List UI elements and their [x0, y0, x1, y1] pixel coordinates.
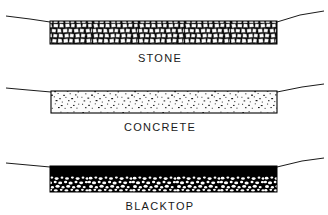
concrete-layer-fill — [51, 91, 277, 113]
stone-layer-fill — [50, 21, 277, 44]
pavement-cross-section-figure: STONE CONCRETE BLACKTOP — [0, 0, 328, 215]
stone-label: STONE — [138, 52, 182, 64]
blacktop-asphalt-surface — [50, 166, 277, 176]
figure-canvas: STONE CONCRETE BLACKTOP — [0, 0, 328, 215]
blacktop-aggregate-base — [50, 176, 277, 192]
concrete-label: CONCRETE — [124, 121, 196, 133]
blacktop-label: BLACKTOP — [126, 200, 195, 212]
